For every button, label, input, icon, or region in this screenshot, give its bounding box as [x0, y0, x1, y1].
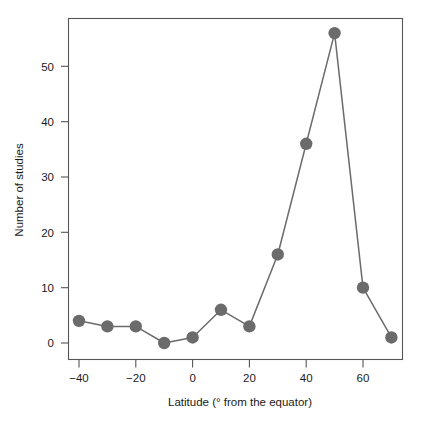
y-tick-label-50: 50	[41, 61, 54, 73]
data-point	[158, 337, 170, 349]
y-axis-title: Number of studies	[13, 143, 25, 237]
chart-figure: 0 10 20 30 40 50 −40 −20 0 20 40 60 Lati…	[0, 0, 421, 429]
x-axis-title: Latitude (° from the equator)	[168, 396, 312, 408]
data-point	[243, 320, 255, 332]
data-point	[73, 315, 85, 327]
data-point	[130, 320, 142, 332]
x-tick-label-minus40: −40	[69, 372, 89, 384]
data-point	[101, 320, 113, 332]
x-tick-label-0: 0	[189, 372, 195, 384]
y-tick-label-30: 30	[41, 171, 54, 183]
x-tick-label-60: 60	[357, 372, 370, 384]
data-point	[357, 281, 369, 293]
x-tick-label-40: 40	[300, 372, 313, 384]
y-tick-label-40: 40	[41, 116, 54, 128]
y-tick-label-20: 20	[41, 227, 54, 239]
data-point	[328, 27, 340, 39]
data-point	[215, 304, 227, 316]
y-tick-label-10: 10	[41, 282, 54, 294]
y-tick-label-0: 0	[48, 337, 54, 349]
data-point	[300, 138, 312, 150]
scatter-line-chart: 0 10 20 30 40 50 −40 −20 0 20 40 60 Lati…	[0, 0, 421, 429]
data-point	[272, 248, 284, 260]
data-point	[385, 331, 397, 343]
x-tick-label-minus20: −20	[126, 372, 146, 384]
chart-background	[0, 0, 421, 429]
x-tick-label-20: 20	[243, 372, 256, 384]
data-point	[186, 331, 198, 343]
